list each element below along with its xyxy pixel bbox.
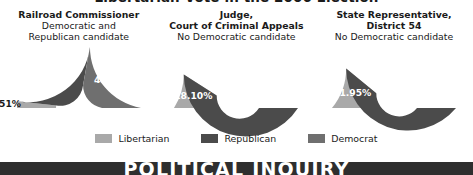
chart-panel: Railroad CommissionerDemocratic andRepub… — [0, 8, 158, 130]
chart-panels: Railroad CommissionerDemocratic andRepub… — [0, 8, 473, 130]
chart-title-strip: Libertarian Vote in the 2006 Election — [0, 0, 473, 8]
page-title: Libertarian Vote in the 2006 Election — [0, 0, 473, 5]
segment-value-label: 21.95% — [333, 87, 371, 98]
infographic-root: Libertarian Vote in the 2006 Election Ra… — [0, 0, 473, 175]
panel-heading-line: Democratic and — [0, 20, 158, 31]
legend-swatch — [95, 134, 112, 143]
donut-chart: 21.95%78.04% — [318, 46, 470, 110]
legend-item: Republican — [201, 133, 276, 144]
chart-panel: State Representative,District 54No Democ… — [315, 8, 473, 130]
legend-swatch — [201, 134, 218, 143]
panel-heading: Railroad CommissionerDemocratic andRepub… — [0, 8, 158, 43]
panel-heading-line: District 54 — [315, 20, 473, 31]
banner-title: POLITICAL INQUIRY — [0, 162, 473, 175]
segment-value-label: 81.89% — [230, 59, 268, 70]
panel-heading: State Representative,District 54No Democ… — [315, 8, 473, 43]
legend-item: Libertarian — [95, 133, 169, 144]
segment-value-label: 52.13% — [33, 66, 71, 77]
bottom-banner: POLITICAL INQUIRY — [0, 162, 473, 175]
donut-segment — [346, 68, 456, 130]
donut-chart: 18.10%81.89% — [160, 46, 312, 110]
chart-panel: Judge,Court of Criminal AppealsNo Democr… — [158, 8, 316, 130]
legend: LibertarianRepublicanDemocrat — [0, 130, 473, 146]
panel-heading-line: Judge, — [158, 9, 316, 20]
panel-heading-line: Republican candidate — [0, 31, 158, 42]
legend-swatch — [308, 134, 325, 143]
panel-heading: Judge,Court of Criminal AppealsNo Democr… — [158, 8, 316, 43]
segment-value-label: 18.10% — [175, 89, 213, 100]
segment-value-label: 3.51% — [0, 98, 21, 109]
legend-label: Democrat — [331, 133, 377, 144]
panel-heading-line: Court of Criminal Appeals — [158, 20, 316, 31]
legend-label: Libertarian — [118, 133, 169, 144]
segment-value-label: 44.35% — [94, 73, 132, 84]
panel-heading-line: No Democratic candidate — [315, 31, 473, 42]
segment-value-label: 78.04% — [390, 60, 428, 71]
donut-segment — [184, 74, 298, 136]
legend-item: Democrat — [308, 133, 377, 144]
donut-chart: 3.51%52.13%44.35% — [3, 46, 155, 110]
panel-heading-line: Railroad Commissioner — [0, 9, 158, 20]
panel-heading-line: State Representative, — [315, 9, 473, 20]
panel-heading-line: No Democratic candidate — [158, 31, 316, 42]
legend-label: Republican — [224, 133, 276, 144]
